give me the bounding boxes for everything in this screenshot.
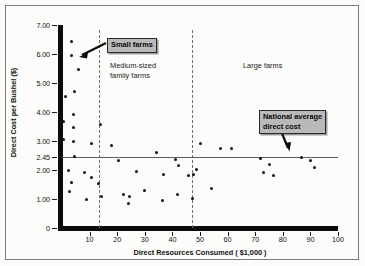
scatter-plot: 7.006.005.004.003.002.452.001.000 102030… <box>0 0 365 266</box>
figure-root: 7.006.005.004.003.002.452.001.000 102030… <box>0 0 365 266</box>
callout-national-average: National average direct cost <box>259 110 326 134</box>
